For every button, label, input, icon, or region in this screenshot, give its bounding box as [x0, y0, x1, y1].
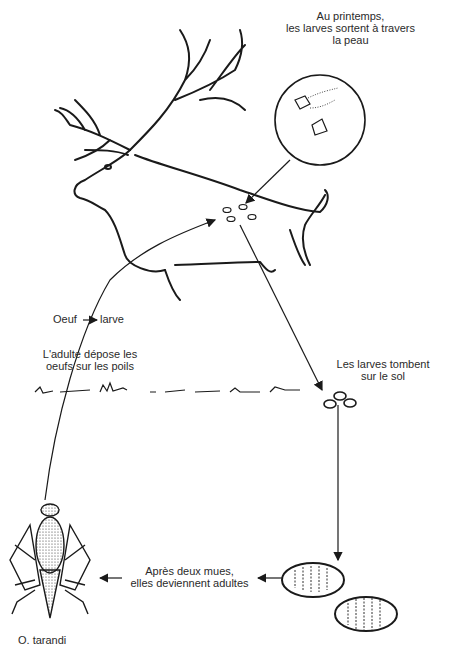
ground-line	[35, 383, 300, 393]
label-line: Au printemps,	[268, 10, 433, 22]
label-line: Après deux mues,	[122, 565, 257, 577]
caribou-illustration	[55, 30, 328, 300]
label-species: O. tarandi	[18, 634, 66, 646]
adult-fly	[10, 504, 90, 618]
pupae	[282, 563, 397, 631]
label-line: L'adulte dépose les	[35, 348, 145, 360]
label-egg: Oeuf	[53, 313, 77, 325]
label-molts: Après deux mues, elles deviennent adulte…	[122, 565, 257, 589]
label-line: Les larves tombent	[333, 358, 433, 370]
magnified-inset	[275, 75, 365, 165]
label-line: la peau	[268, 34, 433, 46]
label-line: les larves sortent à travers	[268, 22, 433, 34]
fallen-larvae	[324, 392, 356, 408]
label-line: elles deviennent adultes	[122, 577, 257, 589]
label-adult-lays-eggs: L'adulte dépose les oeufs sur les poils	[35, 348, 145, 372]
label-spring-emergence: Au printemps, les larves sortent à trave…	[268, 10, 433, 46]
label-larva: larve	[100, 313, 124, 325]
label-line: sur le sol	[333, 370, 433, 382]
life-cycle-illustration	[0, 0, 450, 660]
label-line: oeufs sur les poils	[35, 360, 145, 372]
label-larvae-fall: Les larves tombent sur le sol	[333, 358, 433, 382]
